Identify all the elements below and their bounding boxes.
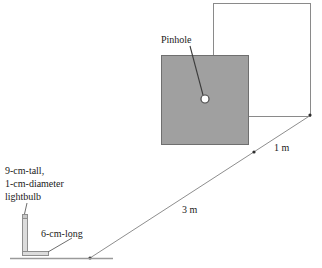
ray-tick-midpoint: [252, 150, 255, 153]
lightbulb-base: [23, 252, 49, 256]
pinhole-aperture-icon: [201, 95, 209, 103]
lightbulb-leader-line: [25, 203, 28, 214]
lightbulb-spec-line-3: lightbulb: [5, 191, 41, 202]
base-length-label: 6-cm-long: [41, 228, 83, 239]
ray-tick-screen-corner: [308, 113, 311, 116]
lightbulb-spec-line-2: 1-cm-diameter: [5, 178, 65, 189]
diagram-canvas: Pinhole 1 m 3 m 9-cm-tall, 1-cm-diameter…: [0, 0, 322, 268]
lightbulb-cap: [23, 215, 28, 219]
lightbulb-tube: [23, 219, 28, 256]
pinhole-label: Pinhole: [161, 34, 192, 45]
pinhole-camera-figure: Pinhole 1 m 3 m 9-cm-tall, 1-cm-diameter…: [0, 0, 322, 268]
screen-distance-label: 1 m: [274, 142, 290, 153]
base-length-leader-line: [48, 238, 72, 252]
object-distance-label: 3 m: [182, 204, 198, 215]
lightbulb-spec-line-1: 9-cm-tall,: [5, 165, 44, 176]
